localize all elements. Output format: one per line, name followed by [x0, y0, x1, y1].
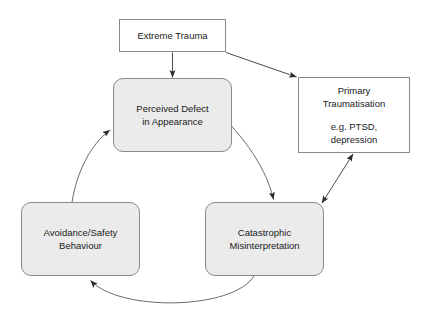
node-avoidance-safety-behaviour-line-0: Avoidance/Safety	[44, 226, 118, 239]
node-primary-traumatisation-line-1: Traumatisation	[323, 97, 385, 110]
connector-avoidance-to-defect	[72, 130, 110, 202]
connector-defect-to-catastrophic	[232, 126, 274, 200]
connector-trauma-to-primary	[226, 53, 297, 78]
node-catastrophic-misinterpretation: Catastrophic Misinterpretation	[205, 202, 324, 276]
node-extreme-trauma-line-0: Extreme Trauma	[137, 29, 207, 42]
node-primary-traumatisation-line-3: e.g. PTSD,	[331, 120, 377, 133]
diagram-canvas: Extreme Trauma Perceived Defect in Appea…	[0, 0, 424, 333]
node-primary-traumatisation-line-4: depression	[331, 133, 377, 146]
node-catastrophic-misinterpretation-line-1: Misinterpretation	[229, 239, 299, 252]
node-extreme-trauma: Extreme Trauma	[119, 19, 226, 52]
node-primary-traumatisation-line-0: Primary	[338, 84, 371, 97]
node-avoidance-safety-behaviour-line-1: Behaviour	[59, 239, 102, 252]
connector-catastrophic-to-avoidance	[91, 276, 255, 303]
connector-catastrophic-primary-bidirectional	[322, 154, 353, 203]
node-perceived-defect-line-0: Perceived Defect	[136, 102, 208, 115]
node-catastrophic-misinterpretation-line-0: Catastrophic	[238, 226, 291, 239]
node-primary-traumatisation: Primary Traumatisation e.g. PTSD, depres…	[298, 77, 410, 153]
node-avoidance-safety-behaviour: Avoidance/Safety Behaviour	[21, 202, 140, 276]
node-perceived-defect-line-1: in Appearance	[142, 115, 203, 128]
node-perceived-defect: Perceived Defect in Appearance	[113, 78, 232, 152]
